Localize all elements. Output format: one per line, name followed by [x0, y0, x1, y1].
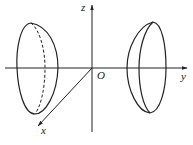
z-axis-label: z [80, 1, 86, 13]
x-axis-label: x [40, 124, 46, 136]
x-axis [38, 68, 92, 126]
origin-label: O [97, 69, 105, 81]
coordinate-diagram: z y x O [0, 0, 193, 145]
y-axis-label: y [180, 70, 186, 82]
